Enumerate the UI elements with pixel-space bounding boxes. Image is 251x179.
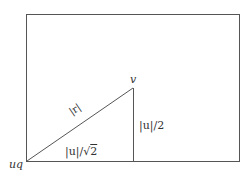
base-label: |u|/√2 <box>65 146 97 157</box>
base-label-sqrt-arg: 2 <box>90 145 97 158</box>
vertical-side-label: |u|/2 <box>139 120 164 131</box>
diagram-canvas <box>0 0 251 179</box>
vertex-label-uq: uq <box>9 159 23 170</box>
vertex-label-v: v <box>130 74 136 85</box>
base-label-prefix: |u|/ <box>65 145 83 158</box>
